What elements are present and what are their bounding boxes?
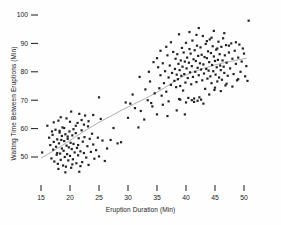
data-point <box>157 66 159 68</box>
data-point <box>69 121 71 123</box>
data-point <box>196 45 198 47</box>
data-point <box>202 63 204 65</box>
data-point <box>53 160 55 162</box>
data-point <box>179 85 181 87</box>
data-point <box>216 66 218 68</box>
data-point <box>156 113 158 115</box>
data-point <box>246 80 248 82</box>
x-axis-title: Eruption Duration (Min) <box>0 206 281 213</box>
data-point <box>231 58 233 60</box>
data-point <box>50 157 52 159</box>
data-point <box>205 43 207 45</box>
data-point <box>205 68 207 70</box>
lowess-trend-path <box>41 58 247 158</box>
data-point <box>87 164 89 166</box>
data-point <box>238 43 240 45</box>
y-tick-label: 50 <box>20 153 28 160</box>
data-point <box>162 104 164 106</box>
data-point <box>63 150 65 152</box>
data-point <box>181 47 183 49</box>
data-point <box>156 57 158 59</box>
data-point <box>193 97 195 99</box>
data-point <box>53 121 55 123</box>
data-point <box>149 80 151 82</box>
data-point <box>181 66 183 68</box>
data-point <box>180 75 182 77</box>
data-point <box>75 125 77 127</box>
data-point <box>184 81 186 83</box>
data-point <box>75 162 77 164</box>
data-point <box>87 120 89 122</box>
data-point <box>84 114 86 116</box>
data-point <box>81 119 83 121</box>
data-point <box>90 151 92 153</box>
data-point <box>218 76 220 78</box>
data-point <box>217 41 219 43</box>
data-point <box>52 149 54 151</box>
data-point <box>46 125 48 127</box>
data-point <box>81 129 83 131</box>
y-tick-label: 80 <box>20 68 28 75</box>
data-point <box>214 87 216 89</box>
data-point <box>70 110 72 112</box>
data-point <box>192 76 194 78</box>
data-point <box>89 138 91 140</box>
data-point <box>92 114 94 116</box>
data-point <box>183 73 185 75</box>
data-point <box>83 124 85 126</box>
data-point <box>191 65 193 67</box>
data-point <box>67 138 69 140</box>
data-point <box>176 53 178 55</box>
data-point <box>200 99 202 101</box>
data-point <box>214 60 216 62</box>
data-point <box>53 141 55 143</box>
data-point <box>213 30 215 32</box>
data-point <box>98 96 100 98</box>
data-point <box>226 62 228 64</box>
data-point <box>179 99 181 101</box>
data-point <box>237 57 239 59</box>
data-point <box>174 68 176 70</box>
data-point <box>202 35 204 37</box>
data-point <box>176 109 178 111</box>
data-point <box>86 145 88 147</box>
data-point <box>177 63 179 65</box>
data-point <box>72 143 74 145</box>
data-point <box>116 142 118 144</box>
data-point <box>150 102 152 104</box>
data-point <box>134 107 136 109</box>
data-point <box>187 77 189 79</box>
data-point <box>189 71 191 73</box>
data-point <box>203 72 205 74</box>
data-point <box>78 171 80 173</box>
data-point <box>243 53 245 55</box>
data-point <box>219 64 221 66</box>
data-point <box>221 59 223 61</box>
data-point <box>174 58 176 60</box>
data-point <box>92 143 94 145</box>
data-point <box>179 69 181 71</box>
data-point <box>172 51 174 53</box>
y-tick-label: 100 <box>17 11 29 18</box>
x-tick-label: 20 <box>66 194 74 201</box>
data-point <box>56 138 58 140</box>
data-point <box>139 76 141 78</box>
data-point <box>208 61 210 63</box>
data-point <box>67 135 69 137</box>
data-point <box>197 100 199 102</box>
data-point <box>183 51 185 53</box>
data-point <box>66 153 68 155</box>
data-point <box>192 58 194 60</box>
data-point <box>75 132 77 134</box>
data-point <box>182 89 184 91</box>
x-tick-label: 45 <box>211 194 219 201</box>
data-point <box>64 133 66 135</box>
data-point <box>91 133 93 135</box>
data-point <box>190 83 192 85</box>
data-point <box>230 42 232 44</box>
data-point <box>72 128 74 130</box>
data-point <box>177 78 179 80</box>
data-point <box>217 59 219 61</box>
data-point <box>213 55 215 57</box>
data-point <box>232 73 234 75</box>
